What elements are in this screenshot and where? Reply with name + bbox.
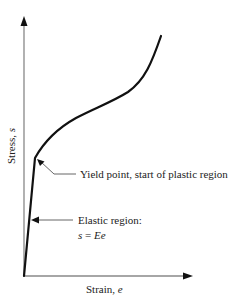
stress-strain-diagram: Yield point, start of plastic region Ela… [0, 0, 230, 301]
yield-arrow-icon [37, 159, 45, 166]
y-axis-label-text: Stress, [5, 132, 17, 164]
elastic-arrow-icon [31, 217, 39, 224]
elastic-equation: s = Ee [78, 229, 106, 241]
eq-rhs: Ee [93, 229, 106, 241]
yield-point-label: Yield point, start of plastic region [80, 168, 228, 180]
eq-equals: = [82, 229, 94, 241]
y-axis-label: Stress, s [5, 128, 17, 164]
x-axis-variable: e [118, 283, 123, 295]
x-axis-label: Strain, e [86, 283, 123, 295]
elastic-region-label: Elastic region: [78, 214, 142, 226]
y-axis-variable: s [5, 128, 17, 132]
yield-point-leader [37, 159, 76, 174]
x-axis [24, 273, 193, 280]
x-axis-arrow-icon [183, 273, 193, 280]
x-axis-label-text: Strain, [86, 283, 118, 295]
y-axis [21, 16, 28, 276]
elastic-region-leader [31, 217, 73, 224]
y-axis-arrow-icon [21, 16, 28, 26]
